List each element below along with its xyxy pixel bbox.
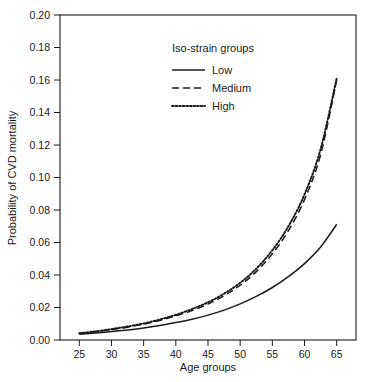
y-tick-label-0.00: 0.00: [30, 334, 51, 346]
x-tick-label-50: 50: [234, 348, 246, 360]
chart-figure: 0.000.020.040.060.080.100.120.140.160.18…: [0, 0, 374, 382]
curve-low: [79, 224, 336, 334]
y-tick-label-0.08: 0.08: [30, 204, 51, 216]
legend-label-low: Low: [212, 64, 232, 76]
x-tick-label-40: 40: [170, 348, 182, 360]
data-curves: [79, 78, 336, 334]
y-tick-label-0.14: 0.14: [30, 106, 51, 118]
y-tick-label-0.10: 0.10: [30, 171, 51, 183]
y-tick-label-0.20: 0.20: [30, 9, 51, 21]
y-tick-label-0.02: 0.02: [30, 301, 51, 313]
x-tick-label-35: 35: [138, 348, 150, 360]
y-tick-label-0.04: 0.04: [30, 269, 51, 281]
y-axis-tick-labels: 0.000.020.040.060.080.100.120.140.160.18…: [30, 9, 51, 346]
legend-label-high: High: [212, 100, 235, 112]
y-tick-label-0.06: 0.06: [30, 236, 51, 248]
x-tick-label-30: 30: [106, 348, 118, 360]
y-axis-ticks: [54, 15, 60, 340]
legend-label-medium: Medium: [212, 82, 251, 94]
curve-high: [79, 78, 336, 333]
legend: Iso-strain groups LowMediumHigh: [172, 42, 254, 112]
x-axis-title: Age groups: [180, 361, 237, 373]
x-tick-label-25: 25: [73, 348, 85, 360]
legend-title: Iso-strain groups: [172, 42, 254, 54]
cvd-mortality-line-chart: 0.000.020.040.060.080.100.120.140.160.18…: [0, 0, 374, 382]
x-tick-label-60: 60: [299, 348, 311, 360]
y-tick-label-0.12: 0.12: [30, 139, 51, 151]
y-tick-label-0.16: 0.16: [30, 74, 51, 86]
y-tick-label-0.18: 0.18: [30, 41, 51, 53]
y-axis-title: Probability of CVD mortality: [6, 110, 18, 245]
x-axis-ticks: [79, 340, 336, 346]
x-tick-label-65: 65: [331, 348, 343, 360]
x-tick-label-45: 45: [202, 348, 214, 360]
legend-items: LowMediumHigh: [172, 64, 251, 112]
x-axis-tick-labels: 253035404550556065: [73, 348, 342, 360]
x-tick-label-55: 55: [267, 348, 279, 360]
